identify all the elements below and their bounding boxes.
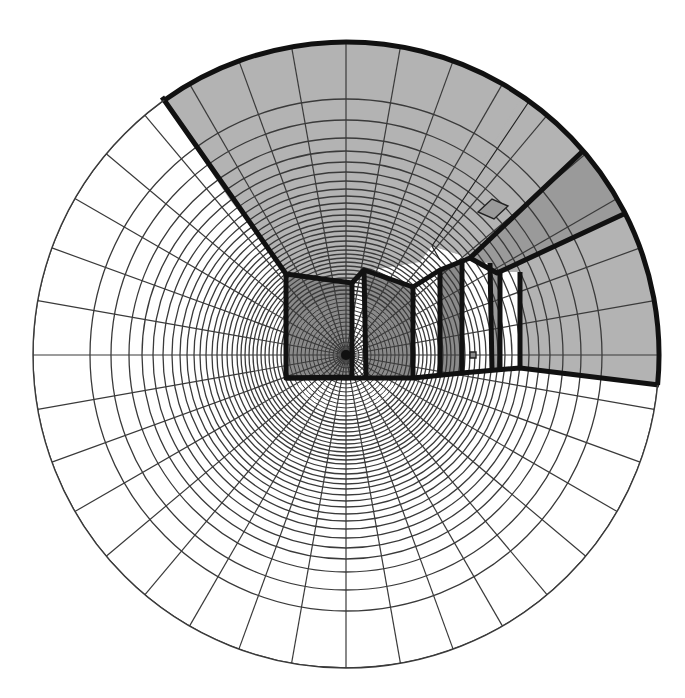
obstruction-edge (490, 263, 492, 370)
sky-view-diagram (0, 0, 685, 698)
polar-grid-canvas (0, 0, 685, 698)
wall-switch (470, 352, 476, 358)
obstruction-edge (364, 270, 366, 378)
zenith-point (341, 350, 351, 360)
